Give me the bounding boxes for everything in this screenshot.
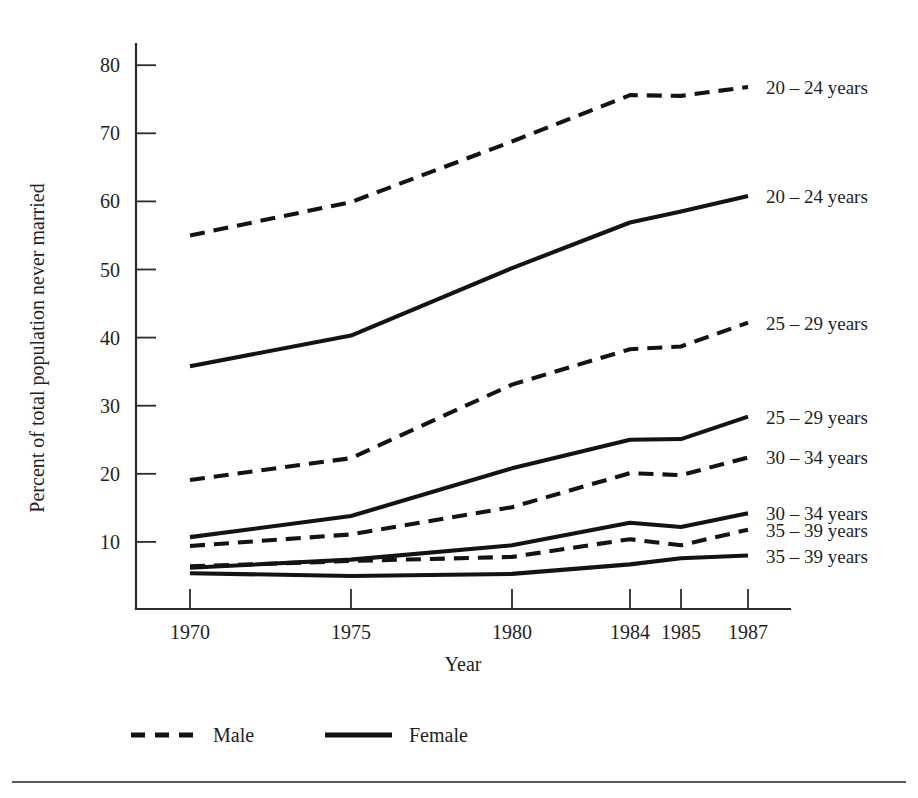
x-tick-label: 1980 — [492, 621, 532, 643]
series-end-label: 20 – 24 years — [766, 186, 868, 207]
y-tick-label: 60 — [100, 190, 120, 212]
y-axis-ticks — [136, 65, 156, 542]
series-line-male-25-29 — [190, 323, 748, 480]
series-line-female-25-29 — [190, 417, 748, 538]
x-tick-label: 1984 — [610, 621, 650, 643]
y-tick-label: 10 — [100, 531, 120, 553]
series-end-labels: 20 – 24 years20 – 24 years25 – 29 years2… — [766, 77, 868, 567]
y-tick-label: 50 — [100, 259, 120, 281]
series-end-label: 25 – 29 years — [766, 407, 868, 428]
y-tick-label: 80 — [100, 54, 120, 76]
series-end-label: 30 – 34 years — [766, 447, 868, 468]
series-end-label: 35 – 39 years — [766, 520, 868, 541]
series-line-female-35-39 — [190, 556, 748, 576]
x-axis-ticks — [190, 589, 748, 609]
series-line-female-20-24 — [190, 196, 748, 366]
series-end-label: 35 – 39 years — [766, 546, 868, 567]
y-axis-title: Percent of total population never marrie… — [26, 183, 49, 512]
series-end-label: 25 – 29 years — [766, 313, 868, 334]
series-line-male-30-34 — [190, 457, 748, 546]
y-tick-label: 40 — [100, 327, 120, 349]
y-axis-tick-labels: 1020304050607080 — [100, 54, 120, 553]
y-tick-label: 70 — [100, 122, 120, 144]
legend-label-female: Female — [409, 724, 468, 746]
x-axis-tick-labels: 197019751980198419851987 — [170, 621, 768, 643]
x-tick-label: 1970 — [170, 621, 210, 643]
series-end-label: 20 – 24 years — [766, 77, 868, 98]
x-tick-label: 1987 — [728, 621, 768, 643]
x-tick-label: 1985 — [661, 621, 701, 643]
y-tick-label: 20 — [100, 463, 120, 485]
line-chart: 1020304050607080 19701975198019841985198… — [0, 0, 918, 798]
y-tick-label: 30 — [100, 395, 120, 417]
x-axis-title: Year — [445, 653, 482, 675]
chart-legend: Male Female — [131, 724, 468, 746]
series-lines — [190, 87, 748, 576]
figure-container: 1020304050607080 19701975198019841985198… — [0, 0, 918, 798]
legend-label-male: Male — [213, 724, 254, 746]
x-tick-label: 1975 — [331, 621, 371, 643]
